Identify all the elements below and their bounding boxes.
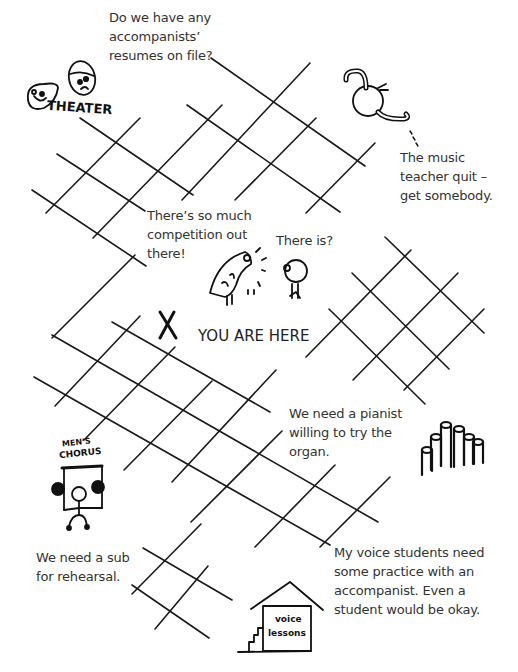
caption-competition: There’s so much competition out there! bbox=[147, 206, 251, 263]
house-sign-line2: lessons bbox=[268, 628, 306, 638]
house-sign-line1: voice bbox=[275, 614, 302, 624]
caption-mens-chorus: We need a sub for rehearsal. bbox=[36, 548, 130, 586]
maze-map-illustration: THEATER MEN’S CHORUS voice lessons Do we… bbox=[0, 0, 518, 672]
caption-reply: There is? bbox=[276, 231, 333, 250]
mens-chorus-figure-icon bbox=[52, 466, 104, 530]
apple-worm-icon bbox=[346, 71, 418, 146]
bald-figure-icon bbox=[284, 260, 307, 298]
caption-organ: We need a pianist willing to try the org… bbox=[289, 404, 402, 461]
you-are-here-x-marker bbox=[160, 312, 176, 338]
caption-music-teacher: The music teacher quit – get somebody. bbox=[400, 148, 493, 205]
caption-theater: Do we have any accompanists’ resumes on … bbox=[109, 8, 212, 65]
you-are-here-label: YOU ARE HERE bbox=[198, 327, 309, 345]
caption-voice-lessons: My voice students need some practice wit… bbox=[334, 543, 484, 619]
organ-pipes-icon bbox=[422, 422, 483, 475]
